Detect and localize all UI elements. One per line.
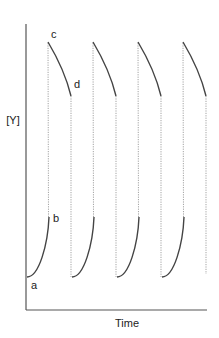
oscillation-chart: [Y] Time a b c d: [0, 0, 219, 338]
y-axis-label: [Y]: [6, 114, 19, 126]
jump-up-line: [48, 42, 49, 217]
rising-curve: [162, 217, 184, 277]
x-axis-label: Time: [115, 317, 139, 329]
point-label-d: d: [74, 78, 80, 90]
point-label-b: b: [53, 212, 59, 224]
jump-up-line: [138, 42, 139, 217]
rising-curve: [72, 217, 94, 277]
falling-curves: [48, 42, 206, 96]
falling-curve: [138, 42, 161, 96]
rising-curves: [27, 217, 184, 277]
falling-curve: [48, 42, 71, 96]
jump-up-line: [93, 42, 94, 217]
falling-curve: [183, 42, 206, 96]
point-label-a: a: [31, 279, 38, 291]
discontinuity-lines: [48, 42, 206, 277]
rising-curve: [27, 217, 49, 277]
rising-curve: [117, 217, 139, 277]
point-label-c: c: [51, 28, 57, 40]
jump-up-line: [183, 42, 184, 217]
falling-curve: [93, 42, 116, 96]
